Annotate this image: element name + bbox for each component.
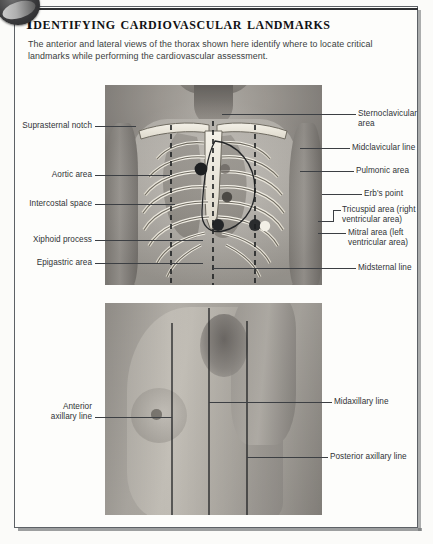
leader-tricuspid-area-arm — [318, 221, 334, 222]
leader-pulmonic-area — [300, 171, 354, 172]
anterior-thorax-photo — [105, 85, 322, 285]
leader-midsternal-line — [213, 268, 356, 269]
leader-posterior-axillary-line — [247, 457, 328, 458]
leader-suprasternal-notch — [95, 126, 136, 127]
leader-midaxillary-line — [209, 402, 332, 403]
label-sternoclavicular-area: Sternoclavicular area — [358, 109, 430, 130]
leader-mitral-area — [318, 233, 346, 234]
label-intercostal-space: Intercostal space — [6, 199, 92, 209]
label-midsternal-line: Midsternal line — [358, 263, 432, 273]
label-epigastric-area: Epigastric area — [8, 258, 92, 268]
label-posterior-axillary-line: Posterior axillary line — [330, 452, 430, 462]
page-title: Identifying cardiovascular landmarks — [26, 13, 418, 34]
label-midclavicular-line: Midclavicular line — [352, 143, 432, 153]
label-xiphoid-process: Xiphoid process — [8, 235, 92, 245]
label-suprasternal-notch: Suprasternal notch — [14, 121, 92, 131]
label-aortic-area: Aortic area — [14, 170, 92, 180]
lateral-anatomy-overlay — [105, 303, 322, 515]
page-frame-shadow-bottom — [18, 528, 422, 531]
leader-anterior-axillary-line — [95, 417, 172, 418]
leader-tricuspid-area-vertical — [333, 210, 334, 221]
label-tricuspid-area: Tricuspid area (right ventricular area) — [342, 205, 432, 226]
label-midaxillary-line: Midaxillary line — [334, 397, 424, 407]
title-rule — [26, 8, 418, 10]
leader-xiphoid-process — [95, 240, 203, 241]
lateral-thorax-photo — [105, 303, 322, 515]
leader-aortic-area — [95, 175, 170, 176]
intro-paragraph: The anterior and lateral views of the th… — [28, 39, 406, 62]
leader-intercostal-space — [95, 204, 175, 205]
leader-midclavicular-line — [300, 148, 350, 149]
label-erbs-point: Erb's point — [364, 189, 432, 199]
label-pulmonic-area: Pulmonic area — [356, 166, 432, 176]
anterior-anatomy-overlay — [105, 85, 322, 285]
leader-tricuspid-area-top — [333, 210, 341, 211]
leader-sternoclavicular-area — [222, 114, 356, 115]
leader-erbs-point — [322, 194, 362, 195]
label-mitral-area: Mitral area (left ventricular area) — [348, 228, 432, 249]
badge-swoosh — [0, 0, 37, 23]
leader-epigastric-area — [95, 263, 203, 264]
label-anterior-axillary-line: Anterior axillary line — [18, 402, 92, 423]
